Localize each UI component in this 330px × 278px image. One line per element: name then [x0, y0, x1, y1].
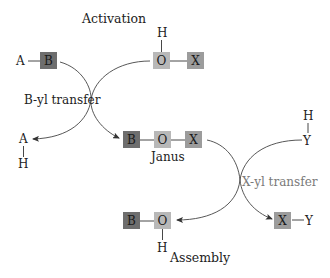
reactant-h-o-x: H O X	[153, 26, 204, 69]
janus-molecule: B O X Janus	[123, 131, 202, 164]
x-box-label: X	[189, 133, 198, 147]
xyl-transfer-label: X-yl transfer	[242, 175, 318, 189]
activation-title: Activation	[81, 11, 146, 26]
atom-a: A	[18, 132, 28, 146]
atom-h: H	[157, 241, 167, 255]
x-box-label: X	[278, 214, 287, 228]
o-box-label: O	[158, 214, 168, 228]
product-b-o-h: B O H	[123, 212, 171, 255]
atom-a: A	[15, 54, 25, 68]
product-x-y: X Y	[274, 212, 314, 229]
byl-transfer-label: B-yl transfer	[24, 93, 101, 107]
janus-label: Janus	[149, 150, 185, 164]
reactant-a-b: A B	[15, 52, 57, 69]
reaction-scheme-diagram: Activation Assembly A B H O X B-yl trans…	[0, 0, 330, 278]
x-box-label: X	[191, 54, 200, 68]
atom-h: H	[157, 26, 167, 40]
atom-h: H	[18, 157, 28, 171]
b-box-label: B	[127, 133, 136, 147]
assembly-title: Assembly	[169, 250, 231, 265]
o-box-label: O	[157, 54, 167, 68]
atom-y: Y	[304, 214, 314, 228]
atom-y: Y	[302, 134, 312, 148]
atom-h: H	[303, 109, 313, 123]
o-box-label: O	[158, 133, 168, 147]
byproduct-a-h: A H	[18, 132, 28, 171]
reagent-h-y: H Y	[302, 109, 313, 148]
b-box-label: B	[44, 54, 53, 68]
b-box-label: B	[127, 214, 136, 228]
